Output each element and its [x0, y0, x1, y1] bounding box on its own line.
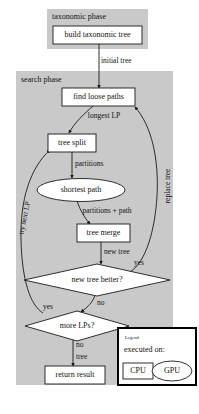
node-tree-merge[interactable]: tree merge — [77, 224, 130, 242]
flowchart-canvas: taxonomic phase search phase initial tre… — [0, 0, 199, 414]
legend-item-cpu: CPU — [123, 363, 153, 379]
legend-label-gpu: GPU — [164, 366, 180, 375]
edge-label-initial-tree: initial tree — [101, 56, 132, 65]
search-phase-label: search phase — [21, 75, 62, 84]
node-label-more-lps: more LPs? — [60, 321, 95, 330]
node-shortest-path[interactable]: shortest path — [37, 179, 125, 202]
node-find-loose-paths[interactable]: find loose paths — [62, 88, 135, 106]
node-label-new-tree-better: new tree better? — [71, 275, 123, 284]
edge-label-yes-replace: yes — [134, 258, 144, 267]
edge-label-partitions-path: partitions + path — [82, 206, 131, 215]
legend-label-cpu: CPU — [130, 366, 146, 375]
node-label-find-loose-paths: find loose paths — [73, 92, 124, 101]
edge-label-yes-try-next: yes — [43, 302, 53, 311]
legend-item-gpu: GPU — [152, 361, 192, 381]
edge-label-replace-tree: replace tree — [163, 168, 172, 203]
edge-label-partitions: partitions — [75, 159, 103, 168]
node-tree-split[interactable]: tree split — [48, 134, 96, 152]
edge-label-no-more-lps: no — [97, 298, 105, 307]
taxonomic-phase-label: taxonomic phase — [52, 12, 106, 21]
node-label-shortest-path: shortest path — [61, 185, 102, 194]
flowchart-diagram: taxonomic phase search phase initial tre… — [0, 0, 199, 414]
legend-caption: executed on: — [124, 345, 165, 354]
edge-label-new-tree: new tree — [104, 247, 130, 256]
node-label-tree-merge: tree merge — [87, 228, 121, 237]
legend: Legend executed on: CPU GPU — [118, 328, 196, 385]
node-return-result[interactable]: return result — [45, 366, 105, 384]
node-label-tree-split: tree split — [58, 138, 87, 147]
legend-title: Legend — [125, 335, 139, 340]
node-build-taxonomic-tree[interactable]: build taxonomic tree — [53, 26, 142, 44]
edge-label-tree-return: tree — [76, 352, 88, 361]
node-label-return-result: return result — [56, 370, 96, 379]
edge-label-longest-lp: longest LP — [88, 111, 120, 120]
node-label-build-taxonomic-tree: build taxonomic tree — [64, 30, 131, 39]
